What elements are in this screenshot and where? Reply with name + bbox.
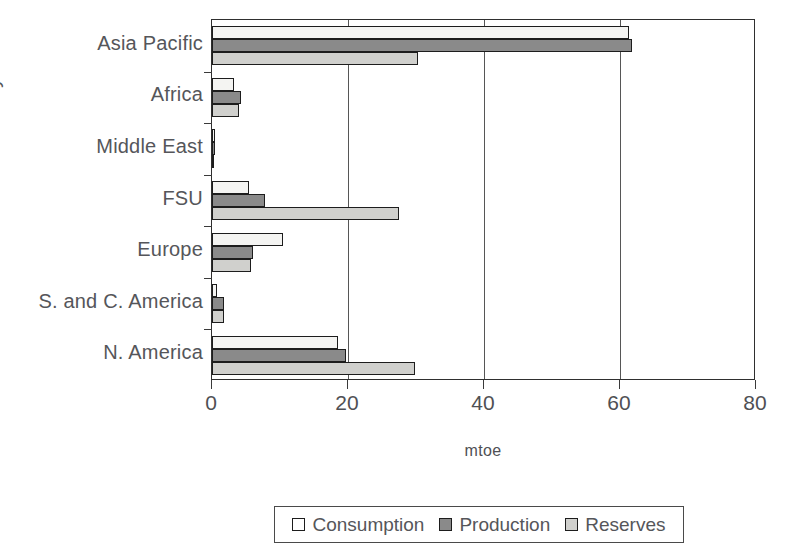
x-tick-label-60: 60 [607, 391, 630, 415]
y-tick [204, 278, 212, 279]
legend-item-production[interactable]: Production [439, 514, 550, 536]
y-axis-label-middle-east: Middle East [96, 135, 203, 158]
y-tick [204, 226, 212, 227]
bar-reserves [212, 52, 418, 65]
y-axis-label-n-america: N. America [103, 341, 203, 364]
bar-group [212, 123, 754, 175]
bar-reserves [212, 362, 415, 375]
x-tick-80 [755, 380, 756, 389]
chart-plot-area [211, 19, 755, 380]
bar-production [212, 194, 265, 207]
x-tick-40 [483, 380, 484, 389]
legend-label: Reserves [585, 514, 665, 536]
x-tick-label-80: 80 [743, 391, 766, 415]
bar-group [212, 278, 754, 330]
bar-group [212, 329, 754, 381]
y-tick [204, 123, 212, 124]
bar-production [212, 246, 253, 259]
bar-reserves [212, 259, 251, 272]
bar-consumption [212, 336, 338, 349]
bar-consumption [212, 181, 249, 194]
y-axis-label-europe: Europe [137, 238, 203, 261]
legend-label: Production [459, 514, 550, 536]
x-axis-unit-label: mtoe [211, 442, 755, 460]
bar-reserves [212, 310, 224, 323]
y-axis-label-s-and-c-america: S. and C. America [38, 290, 203, 313]
legend-swatch-consumption-icon [292, 518, 305, 531]
bar-production [212, 142, 215, 155]
legend-swatch-production-icon [439, 518, 452, 531]
bar-consumption [212, 129, 215, 142]
bar-reserves [212, 104, 239, 117]
y-axis-label-fsu: FSU [162, 187, 203, 210]
x-tick-label-20: 20 [335, 391, 358, 415]
y-tick [204, 329, 212, 330]
y-axis-label-asia-pacific: Asia Pacific [97, 32, 203, 55]
bar-consumption [212, 78, 234, 91]
bar-group [212, 226, 754, 278]
x-tick-label-40: 40 [471, 391, 494, 415]
y-axis-label-africa: Africa [151, 83, 203, 106]
bar-reserves [212, 207, 399, 220]
x-tick-20 [347, 380, 348, 389]
x-axis: 020406080 [211, 380, 755, 430]
bar-group [212, 175, 754, 227]
bar-production [212, 39, 632, 52]
x-tick-label-0: 0 [205, 391, 217, 415]
bar-group [212, 72, 754, 124]
bar-consumption [212, 284, 217, 297]
legend-label: Consumption [312, 514, 424, 536]
legend-swatch-reserves-icon [565, 518, 578, 531]
bar-production [212, 297, 224, 310]
legend-item-reserves[interactable]: Reserves [565, 514, 665, 536]
x-tick-0 [211, 380, 212, 389]
bar-consumption [212, 233, 283, 246]
bar-group [212, 20, 754, 72]
y-axis-category-labels: Asia PacificAfricaMiddle EastFSUEuropeS.… [0, 19, 203, 380]
bar-consumption [212, 26, 629, 39]
y-tick [204, 175, 212, 176]
x-tick-60 [619, 380, 620, 389]
bar-reserves [212, 155, 214, 168]
legend-item-consumption[interactable]: Consumption [292, 514, 424, 536]
chart-legend: ConsumptionProductionReserves [274, 506, 684, 543]
bar-production [212, 91, 241, 104]
y-tick [204, 72, 212, 73]
bar-production [212, 349, 346, 362]
